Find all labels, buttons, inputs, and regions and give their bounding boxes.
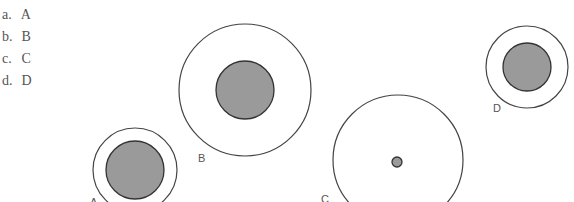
- circle-figure-a: A: [90, 128, 177, 202]
- circle-figure-d: D: [486, 26, 568, 114]
- circle-label: C: [321, 193, 329, 202]
- inner-circle: [106, 141, 164, 199]
- circle-label: D: [493, 102, 501, 114]
- concentric-circles-diagram: ABCD: [0, 0, 574, 202]
- outer-circle: [333, 95, 463, 202]
- circle-label: A: [90, 196, 98, 202]
- inner-circle: [216, 61, 274, 119]
- circle-figure-c: C: [321, 95, 463, 202]
- circle-label: B: [198, 152, 205, 164]
- inner-circle: [392, 157, 402, 167]
- circle-figure-b: B: [179, 24, 311, 164]
- inner-circle: [503, 43, 551, 91]
